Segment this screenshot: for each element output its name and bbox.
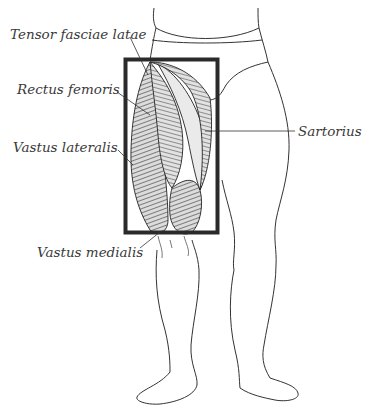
leg-illustration	[0, 0, 370, 417]
label-vastus-medialis: Vastus medialis	[37, 246, 143, 260]
knee-sketch	[158, 236, 189, 258]
anatomy-diagram: Tensor fasciae latae Rectus femoris Vast…	[0, 0, 370, 417]
label-sartorius: Sartorius	[298, 125, 362, 139]
label-vastus-lateralis: Vastus lateralis	[13, 141, 118, 155]
label-tensor-fasciae-latae: Tensor fasciae latae	[10, 28, 146, 42]
label-rectus-femoris: Rectus femoris	[17, 83, 120, 97]
thigh-muscles	[131, 62, 212, 234]
